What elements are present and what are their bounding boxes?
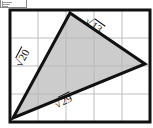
geometry-figure: √20 √13 √29	[0, 0, 153, 128]
